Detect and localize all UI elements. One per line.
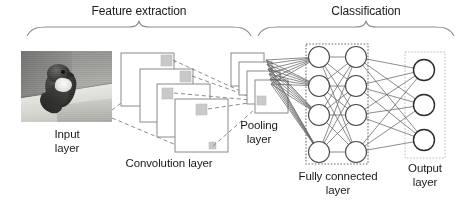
bracket-feature-extraction — [27, 21, 251, 36]
fc2-node-4 — [346, 142, 367, 163]
convolution-feature-map-1 — [175, 99, 228, 152]
fc1-node-4 — [309, 142, 330, 163]
fc-layer2-nodes — [346, 47, 367, 163]
output-node-2 — [414, 95, 435, 116]
output-node-1 — [414, 60, 435, 81]
fc2-node-3 — [346, 105, 367, 126]
diagram-vector-layer — [0, 0, 458, 223]
fc1-node-3 — [309, 105, 330, 126]
connections-fc1-to-fc2 — [319, 57, 356, 152]
fc2-node-1 — [346, 47, 367, 68]
fc1-node-2 — [309, 76, 330, 97]
label-pooling-layer: Pooling layer — [223, 119, 295, 146]
label-output-layer: Output layer — [392, 162, 458, 189]
cnn-architecture-figure: Feature extraction Classification Input … — [0, 0, 458, 223]
bracket-label-classification: Classification — [316, 5, 416, 19]
output-node-3 — [414, 130, 435, 151]
label-fully-connected-layer: Fully connected layer — [292, 170, 384, 197]
fc1-node-1 — [309, 47, 330, 68]
bracket-classification — [258, 21, 454, 36]
fc2-node-2 — [346, 76, 367, 97]
output-layer-nodes — [414, 60, 435, 151]
bracket-label-feature-extraction: Feature extraction — [89, 5, 189, 19]
label-input-layer: Input layer — [33, 128, 101, 155]
fc-layer1-nodes — [309, 47, 330, 163]
label-convolution-layer: Convolution layer — [104, 157, 234, 171]
